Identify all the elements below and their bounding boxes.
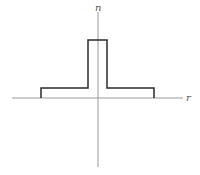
diagram-canvas [0, 0, 200, 175]
r-axis-label: r [186, 93, 191, 103]
n-axis-label: n [95, 3, 101, 13]
